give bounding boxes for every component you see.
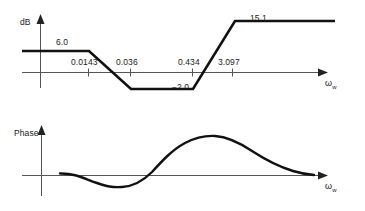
plot-vector-layer <box>0 0 365 211</box>
phase-response-curve <box>60 136 314 187</box>
magnitude-level-label-notch: −2.0 <box>172 82 189 92</box>
magnitude-y-axis-label: dB <box>20 17 31 27</box>
magnitude-tick-label-1: 0.036 <box>116 57 138 67</box>
bode-plot-figure: dB 6.0 −2.0 15.1 0.0143 0.036 0.434 3.09… <box>0 0 365 211</box>
magnitude-asymptote-curve <box>22 21 335 89</box>
phase-y-axis-label: Phase <box>14 128 39 138</box>
phase-plot-group <box>22 125 328 196</box>
magnitude-tick-label-0: 0.0143 <box>71 57 98 67</box>
magnitude-level-label-low: 6.0 <box>56 37 68 47</box>
phase-x-axis-arrowhead <box>318 172 328 180</box>
magnitude-plot-group <box>22 14 335 89</box>
phase-x-axis-label-subscript: w <box>332 187 336 193</box>
magnitude-x-axis-label-subscript: w <box>332 84 336 90</box>
phase-x-axis-label: ωw <box>325 181 337 193</box>
magnitude-tick-label-3: 3.097 <box>218 57 240 67</box>
magnitude-level-label-high: 15.1 <box>250 13 267 23</box>
magnitude-y-axis-arrowhead <box>37 14 45 24</box>
magnitude-x-axis-arrowhead <box>318 69 328 77</box>
magnitude-x-axis-label: ωw <box>325 78 337 90</box>
magnitude-tick-label-2: 0.434 <box>178 57 200 67</box>
